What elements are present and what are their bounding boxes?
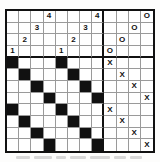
cell-empty[interactable] (44, 46, 56, 58)
cell-empty[interactable] (129, 139, 141, 151)
cell-empty[interactable] (117, 93, 129, 105)
cell-empty[interactable] (80, 116, 92, 128)
cell-empty[interactable] (7, 81, 19, 93)
cell-filled[interactable] (68, 116, 80, 128)
cell-empty[interactable] (7, 11, 19, 23)
cell-empty[interactable] (141, 34, 153, 46)
cell-empty[interactable] (104, 11, 116, 23)
cell-empty[interactable] (80, 46, 92, 58)
cell-empty[interactable] (68, 58, 80, 70)
cell-empty[interactable] (129, 93, 141, 105)
cell-empty[interactable] (7, 116, 19, 128)
cell-empty[interactable] (68, 93, 80, 105)
cell-empty[interactable] (92, 46, 104, 58)
cell-empty[interactable] (44, 104, 56, 116)
cell-filled[interactable] (19, 69, 31, 81)
cell-number[interactable]: 1 (7, 46, 19, 58)
cell-empty[interactable] (129, 34, 141, 46)
cell-empty[interactable] (141, 46, 153, 58)
cell-empty[interactable] (7, 93, 19, 105)
cell-empty[interactable] (31, 11, 43, 23)
cell-filled[interactable] (92, 93, 104, 105)
cell-empty[interactable] (117, 81, 129, 93)
cell-empty[interactable] (92, 69, 104, 81)
cell-empty[interactable] (7, 139, 19, 151)
cell-empty[interactable] (19, 128, 31, 140)
cell-empty[interactable] (7, 34, 19, 46)
cell-empty[interactable] (117, 104, 129, 116)
cell-empty[interactable] (56, 139, 68, 151)
cell-empty[interactable] (7, 69, 19, 81)
cell-empty[interactable] (80, 58, 92, 70)
cell-empty[interactable] (19, 139, 31, 151)
cell-letter-x[interactable]: X (129, 128, 141, 140)
cell-empty[interactable] (56, 81, 68, 93)
cell-letter-x[interactable]: X (129, 81, 141, 93)
cell-letter-x[interactable]: X (141, 139, 153, 151)
cell-empty[interactable] (44, 69, 56, 81)
cell-filled[interactable] (31, 128, 43, 140)
cell-letter-o[interactable]: O (141, 11, 153, 23)
cell-empty[interactable] (56, 128, 68, 140)
cell-filled[interactable] (80, 128, 92, 140)
cell-letter-o[interactable]: O (104, 46, 116, 58)
cell-empty[interactable] (117, 23, 129, 35)
cell-empty[interactable] (68, 128, 80, 140)
cell-empty[interactable] (56, 93, 68, 105)
cell-letter-o[interactable]: O (129, 23, 141, 35)
cell-filled[interactable] (44, 93, 56, 105)
cell-filled[interactable] (7, 58, 19, 70)
cell-empty[interactable] (68, 104, 80, 116)
cell-number[interactable]: 2 (19, 34, 31, 46)
cell-empty[interactable] (56, 116, 68, 128)
cell-empty[interactable] (44, 116, 56, 128)
cell-empty[interactable] (68, 139, 80, 151)
cell-empty[interactable] (68, 46, 80, 58)
cell-filled[interactable] (7, 104, 19, 116)
cell-empty[interactable] (19, 11, 31, 23)
cell-empty[interactable] (44, 34, 56, 46)
cell-empty[interactable] (92, 116, 104, 128)
cell-empty[interactable] (129, 104, 141, 116)
cell-empty[interactable] (141, 104, 153, 116)
cell-empty[interactable] (141, 81, 153, 93)
cell-empty[interactable] (117, 139, 129, 151)
cell-empty[interactable] (31, 69, 43, 81)
cell-number[interactable]: 4 (92, 11, 104, 23)
cell-letter-x[interactable]: X (141, 93, 153, 105)
cell-empty[interactable] (141, 69, 153, 81)
cell-letter-x[interactable]: X (117, 69, 129, 81)
cell-number[interactable]: 3 (31, 23, 43, 35)
cell-empty[interactable] (117, 58, 129, 70)
cell-filled[interactable] (31, 81, 43, 93)
cell-empty[interactable] (19, 93, 31, 105)
cell-empty[interactable] (141, 116, 153, 128)
cell-empty[interactable] (141, 23, 153, 35)
cell-empty[interactable] (44, 58, 56, 70)
cell-empty[interactable] (117, 46, 129, 58)
cell-empty[interactable] (129, 69, 141, 81)
cell-empty[interactable] (31, 104, 43, 116)
cell-number[interactable]: 3 (80, 23, 92, 35)
cell-empty[interactable] (80, 34, 92, 46)
cell-empty[interactable] (141, 58, 153, 70)
cell-empty[interactable] (19, 23, 31, 35)
cell-letter-o[interactable]: O (117, 34, 129, 46)
cell-empty[interactable] (56, 23, 68, 35)
cell-empty[interactable] (92, 34, 104, 46)
cell-empty[interactable] (117, 128, 129, 140)
cell-empty[interactable] (104, 128, 116, 140)
cell-empty[interactable] (141, 128, 153, 140)
cell-empty[interactable] (44, 81, 56, 93)
cell-empty[interactable] (104, 93, 116, 105)
cell-filled[interactable] (19, 116, 31, 128)
cell-empty[interactable] (44, 23, 56, 35)
cell-empty[interactable] (80, 139, 92, 151)
cell-empty[interactable] (68, 81, 80, 93)
cell-filled[interactable] (68, 69, 80, 81)
cell-empty[interactable] (129, 11, 141, 23)
cell-empty[interactable] (104, 116, 116, 128)
cell-empty[interactable] (68, 11, 80, 23)
cell-empty[interactable] (129, 58, 141, 70)
puzzle-grid[interactable]: 44O33O22O11OXXXXXXXX (7, 11, 153, 151)
